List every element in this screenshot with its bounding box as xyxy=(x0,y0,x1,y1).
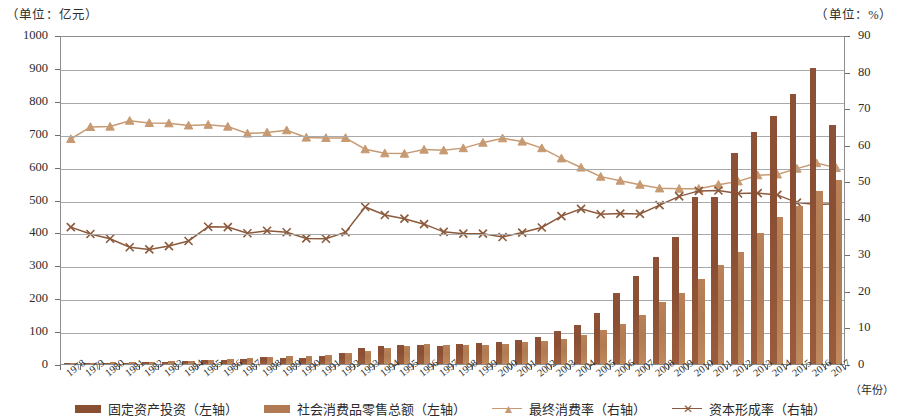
y-axis-tick-label-right: 10 xyxy=(851,321,895,334)
y-axis-tick-mark-right xyxy=(845,73,850,74)
y-axis-tick-mark-right xyxy=(845,36,850,37)
bar-fixed-asset-investment xyxy=(810,68,816,364)
legend-color-swatch xyxy=(75,405,101,413)
y-axis-tick-label-left: 300 xyxy=(0,259,55,272)
chart-container: （单位：亿元） （单位：%） （年份） 固定资产投资（左轴）社会消费品零售总额（… xyxy=(0,0,900,420)
marker-capital-formation-rate xyxy=(557,212,565,220)
y-axis-tick-mark-right xyxy=(845,219,850,220)
bar-retail-sales xyxy=(698,279,704,364)
gridline xyxy=(61,234,844,235)
y-axis-tick-label-left: 1000 xyxy=(0,29,55,42)
bar-retail-sales xyxy=(679,293,685,364)
y-axis-tick-mark-left xyxy=(55,168,60,169)
bar-fixed-asset-investment xyxy=(653,257,659,364)
bar-fixed-asset-investment xyxy=(417,345,423,364)
bar-retail-sales xyxy=(620,324,626,364)
left-axis-unit-label: （单位：亿元） xyxy=(6,4,98,23)
y-axis-tick-mark-right xyxy=(845,109,850,110)
bar-retail-sales xyxy=(796,206,802,364)
bar-fixed-asset-investment xyxy=(751,132,757,364)
legend-color-swatch xyxy=(264,405,290,413)
bar-fixed-asset-investment xyxy=(378,346,384,364)
y-axis-tick-mark-right xyxy=(845,292,850,293)
y-axis-tick-label-left: 600 xyxy=(0,161,55,174)
x-axis-title: （年份） xyxy=(850,381,894,397)
bar-fixed-asset-investment xyxy=(574,325,580,364)
y-axis-tick-label-left: 800 xyxy=(0,95,55,108)
line-capital-formation-rate xyxy=(71,191,836,250)
y-axis-tick-mark-right xyxy=(845,328,850,329)
legend-fixed-asset-investment[interactable]: 固定资产投资（左轴） xyxy=(75,399,238,418)
gridline xyxy=(61,169,844,170)
bar-fixed-asset-investment xyxy=(594,313,600,364)
bar-fixed-asset-investment xyxy=(731,153,737,364)
legend-label: 最终消费率（右轴） xyxy=(529,399,646,418)
bar-fixed-asset-investment xyxy=(496,342,502,364)
bar-retail-sales xyxy=(836,180,842,364)
bar-fixed-asset-investment xyxy=(829,125,835,364)
legend-retail-sales[interactable]: 社会消费品零售总额（左轴） xyxy=(264,399,466,418)
bar-fixed-asset-investment xyxy=(633,276,639,364)
bar-retail-sales xyxy=(777,217,783,364)
gridline xyxy=(61,70,844,71)
gridline xyxy=(61,103,844,104)
y-axis-tick-mark-right xyxy=(845,255,850,256)
gridline xyxy=(61,202,844,203)
gridline xyxy=(61,333,844,334)
right-axis-unit-label: （单位：%） xyxy=(815,4,892,23)
y-axis-tick-mark-right xyxy=(845,146,850,147)
bar-fixed-asset-investment xyxy=(515,340,521,364)
bar-fixed-asset-investment xyxy=(476,343,482,364)
y-axis-tick-label-right: 80 xyxy=(851,66,895,79)
x-axis-tick-mark xyxy=(60,365,61,370)
y-axis-tick-mark-left xyxy=(55,36,60,37)
y-axis-tick-label-left: 100 xyxy=(0,325,55,338)
marker-final-consumption-rate xyxy=(596,172,604,180)
y-axis-tick-mark-left xyxy=(55,299,60,300)
bar-retail-sales xyxy=(659,302,665,364)
y-axis-tick-label-right: 60 xyxy=(851,139,895,152)
y-axis-tick-mark-left xyxy=(55,233,60,234)
y-axis-tick-label-left: 200 xyxy=(0,292,55,305)
bar-fixed-asset-investment xyxy=(64,363,70,364)
y-axis-tick-mark-left xyxy=(55,69,60,70)
bar-retail-sales xyxy=(816,191,822,364)
y-axis-tick-label-right: 0 xyxy=(851,358,895,371)
y-axis-tick-label-left: 900 xyxy=(0,62,55,75)
bar-retail-sales xyxy=(600,330,606,364)
y-axis-tick-mark-left xyxy=(55,201,60,202)
marker-capital-formation-rate xyxy=(361,203,369,211)
bar-fixed-asset-investment xyxy=(711,197,717,364)
line-final-consumption-rate xyxy=(71,121,836,189)
bar-fixed-asset-investment xyxy=(790,94,796,364)
gridline xyxy=(61,136,844,137)
y-axis-tick-label-left: 500 xyxy=(0,194,55,207)
y-axis-tick-mark-left xyxy=(55,102,60,103)
gridline xyxy=(61,267,844,268)
y-axis-tick-label-right: 50 xyxy=(851,175,895,188)
bar-fixed-asset-investment xyxy=(437,346,443,364)
bar-fixed-asset-investment xyxy=(613,293,619,364)
legend-final-consumption-rate[interactable]: ▲最终消费率（右轴） xyxy=(492,399,646,418)
y-axis-tick-label-right: 90 xyxy=(851,29,895,42)
legend-capital-formation-rate[interactable]: ✕资本形成率（右轴） xyxy=(672,399,826,418)
legend-line-swatch: ▲ xyxy=(492,404,522,414)
bar-fixed-asset-investment xyxy=(692,197,698,364)
y-axis-tick-mark-right xyxy=(845,182,850,183)
legend-line-swatch: ✕ xyxy=(672,404,702,414)
legend-label: 固定资产投资（左轴） xyxy=(108,399,238,418)
y-axis-tick-label-left: 400 xyxy=(0,226,55,239)
bar-fixed-asset-investment xyxy=(770,116,776,364)
legend-x-marker-icon: ✕ xyxy=(683,404,693,414)
plot-area xyxy=(60,36,845,365)
y-axis-tick-label-left: 700 xyxy=(0,128,55,141)
y-axis-tick-mark-left xyxy=(55,266,60,267)
y-axis-tick-mark-left xyxy=(55,332,60,333)
marker-capital-formation-rate xyxy=(420,220,428,228)
bar-fixed-asset-investment xyxy=(672,237,678,364)
bar-retail-sales xyxy=(738,252,744,364)
legend-label: 社会消费品零售总额（左轴） xyxy=(297,399,466,418)
marker-final-consumption-rate xyxy=(557,154,565,162)
bar-fixed-asset-investment xyxy=(535,337,541,364)
marker-capital-formation-rate xyxy=(577,205,585,213)
